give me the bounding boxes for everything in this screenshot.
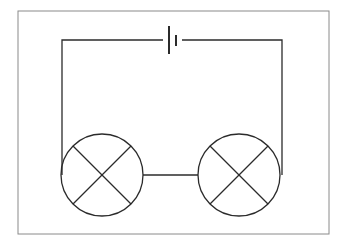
lamp-2-icon xyxy=(198,134,280,216)
wire-top-left xyxy=(62,40,163,175)
wire-top-right xyxy=(182,40,282,175)
lamp-1-icon xyxy=(61,134,143,216)
circuit-diagram xyxy=(0,0,340,249)
wires xyxy=(62,40,282,175)
battery-cell-icon xyxy=(169,26,176,54)
